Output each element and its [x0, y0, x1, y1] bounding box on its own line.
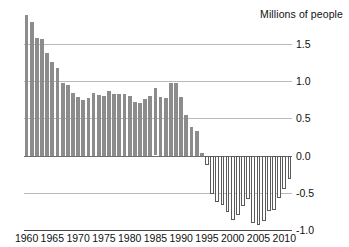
bar [112, 94, 116, 155]
bar [210, 156, 214, 195]
bar [215, 156, 219, 202]
bar [195, 131, 199, 156]
bar [50, 62, 54, 156]
bar [128, 96, 132, 156]
x-tick-label: 1990 [170, 232, 193, 244]
x-tick-label: 1985 [144, 232, 167, 244]
bar [35, 38, 39, 156]
bar [148, 96, 152, 156]
x-tick-label: 2005 [247, 232, 270, 244]
x-tick-label: 1995 [195, 232, 218, 244]
bar [200, 153, 204, 156]
x-tick-label: 1975 [92, 232, 115, 244]
bar [205, 156, 209, 166]
y-tick-label: 0.0 [296, 150, 311, 162]
bar [76, 97, 80, 155]
y-tick-label: -0.5 [296, 187, 314, 199]
bar [174, 83, 178, 155]
bar [87, 98, 91, 155]
y-tick-label: 1.0 [296, 75, 311, 87]
bar [56, 68, 60, 156]
bar [66, 85, 70, 156]
bar [231, 156, 235, 220]
bar [97, 95, 101, 155]
bar [30, 22, 34, 155]
bar [133, 102, 137, 156]
bar [241, 156, 245, 207]
bar [179, 97, 183, 155]
bar [251, 156, 255, 223]
x-axis-line [24, 230, 292, 231]
x-tick-label: 2010 [273, 232, 296, 244]
bar [288, 156, 292, 180]
bar [277, 156, 281, 198]
x-tick-label: 1960 [15, 232, 38, 244]
bar [184, 115, 188, 156]
bar [262, 156, 266, 222]
bar [257, 156, 261, 225]
bar [40, 39, 44, 155]
bar [138, 103, 142, 156]
bar [25, 15, 29, 155]
x-tick-label: 1980 [118, 232, 141, 244]
x-tick-label: 1970 [66, 232, 89, 244]
y-tick-label: 0.5 [296, 112, 311, 124]
bar [143, 99, 147, 156]
bar [107, 91, 111, 155]
x-tick-label: 2000 [221, 232, 244, 244]
bar [71, 93, 75, 156]
bar [81, 100, 85, 156]
bar [190, 127, 194, 155]
bar [159, 97, 163, 156]
y-tick-label: 1.5 [296, 38, 311, 50]
bar [169, 83, 173, 156]
bar [164, 98, 168, 155]
bar [154, 88, 158, 155]
bar [236, 156, 240, 216]
bar [117, 94, 121, 155]
bar-series [24, 14, 292, 230]
bar [267, 156, 271, 211]
bar [282, 156, 286, 190]
plot-area [24, 14, 292, 230]
bar [123, 94, 127, 155]
bar [246, 156, 250, 199]
chart-container: Millions of people 1.51.00.50.0-0.5-1.0 … [0, 0, 349, 247]
bar [226, 156, 230, 213]
bar [92, 93, 96, 156]
bar [102, 96, 106, 156]
x-tick-label: 1965 [41, 232, 64, 244]
y-tick-label: -1.0 [296, 224, 314, 236]
bar [61, 83, 65, 156]
bar [45, 53, 49, 155]
bar [272, 156, 276, 210]
bar [221, 156, 225, 205]
